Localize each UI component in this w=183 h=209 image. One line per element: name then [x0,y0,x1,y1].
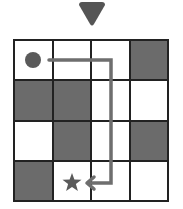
grid-cell-r3-c1[interactable] [53,161,92,201]
triangle-down-icon [77,2,107,26]
grid-cell-r3-c3[interactable] [130,161,169,201]
grid-cell-r2-c2[interactable] [91,121,130,161]
grid-cell-r1-c3[interactable] [130,80,169,120]
grid-cell-r2-c3[interactable] [130,121,169,161]
grid-cell-r0-c3[interactable] [130,40,169,80]
grid-cell-r3-c2[interactable] [91,161,130,201]
grid-cell-r1-c0[interactable] [14,80,53,120]
grid-cell-r2-c1[interactable] [53,121,92,161]
puzzle-grid [13,39,169,202]
grid-cell-r1-c2[interactable] [91,80,130,120]
grid-cell-r2-c0[interactable] [14,121,53,161]
grid-cell-r3-c0[interactable] [14,161,53,201]
grid-cell-r1-c1[interactable] [53,80,92,120]
grid-cell-r0-c0[interactable] [14,40,53,80]
grid-cell-r0-c2[interactable] [91,40,130,80]
grid-cell-r0-c1[interactable] [53,40,92,80]
